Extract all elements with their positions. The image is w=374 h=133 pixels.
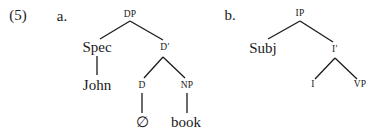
node-subj: Subj (249, 41, 277, 56)
word-null-determiner: ∅ (136, 115, 149, 130)
branch-ibar-vp (335, 58, 357, 79)
branch-dbar-d (144, 57, 163, 78)
word-john: John (83, 78, 111, 93)
branch-ibar-i (315, 58, 335, 79)
node-dp: DP (124, 10, 137, 20)
branch-dp-dbar (130, 21, 163, 40)
example-number: (5) (9, 8, 27, 23)
node-d: D (138, 81, 145, 91)
tree-a-label: a. (57, 9, 67, 24)
branch-ip-subj (268, 21, 300, 39)
node-d-bar: D′ (160, 43, 170, 53)
node-i: I (311, 80, 314, 90)
node-np: NP (181, 81, 194, 91)
node-spec: Spec (82, 40, 111, 55)
word-book: book (171, 115, 201, 130)
node-ip: IP (295, 9, 304, 19)
node-vp: VP (354, 80, 367, 90)
branch-dp-spec (100, 21, 130, 39)
branch-ip-ibar (300, 21, 333, 42)
branch-dbar-np (163, 57, 185, 78)
node-i-bar: I′ (332, 45, 338, 55)
tree-b-label: b. (224, 8, 235, 23)
